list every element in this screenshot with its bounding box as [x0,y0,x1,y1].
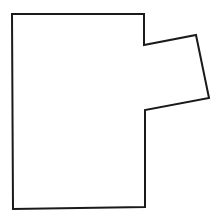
diagram-svg [0,0,219,219]
polygon-shape [12,14,209,209]
diagram-canvas [0,0,219,219]
